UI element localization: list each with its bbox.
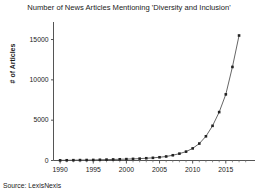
data-point-marker xyxy=(112,158,115,161)
data-point-marker xyxy=(225,93,228,96)
data-point-marker xyxy=(231,66,234,69)
x-tick-label: 2010 xyxy=(179,166,207,173)
y-tick-label: 15000 xyxy=(0,36,49,43)
x-tick-label: 2015 xyxy=(212,166,240,173)
data-point-marker xyxy=(178,152,181,155)
data-point-marker xyxy=(152,157,155,160)
data-point-marker xyxy=(99,158,102,161)
data-point-marker xyxy=(191,147,194,150)
data-point-marker xyxy=(105,158,108,161)
chart-figure: Number of News Articles Mentioning 'Dive… xyxy=(0,0,258,195)
data-point-marker xyxy=(132,158,135,161)
data-point-marker xyxy=(59,159,62,162)
data-point-marker xyxy=(158,156,161,159)
data-point-marker xyxy=(85,159,88,162)
x-tick-label: 1990 xyxy=(46,166,74,173)
source-note: Source: LexisNexis xyxy=(3,182,61,189)
data-point-marker xyxy=(171,154,174,157)
data-point-marker xyxy=(211,125,214,128)
data-point-marker xyxy=(65,159,68,162)
data-point-marker xyxy=(185,150,188,153)
x-tick-label: 1995 xyxy=(79,166,107,173)
data-point-marker xyxy=(238,34,241,37)
data-point-marker xyxy=(205,135,208,138)
data-point-marker xyxy=(145,157,148,160)
y-tick-label: 5000 xyxy=(0,116,49,123)
data-point-marker xyxy=(218,111,221,114)
x-tick-label: 2000 xyxy=(112,166,140,173)
x-tick-label: 2005 xyxy=(146,166,174,173)
data-point-marker xyxy=(79,159,82,162)
data-point-marker xyxy=(72,159,75,162)
data-series-markers xyxy=(59,34,241,161)
data-point-marker xyxy=(138,157,141,160)
data-point-marker xyxy=(198,142,201,145)
data-point-marker xyxy=(125,158,128,161)
data-point-marker xyxy=(118,158,121,161)
axis-spines xyxy=(54,22,256,161)
data-point-marker xyxy=(165,155,168,158)
y-tick-label: 0 xyxy=(0,157,49,164)
y-tick-label: 10000 xyxy=(0,76,49,83)
data-series-line xyxy=(60,35,239,160)
data-point-marker xyxy=(92,159,95,162)
